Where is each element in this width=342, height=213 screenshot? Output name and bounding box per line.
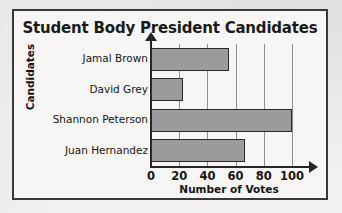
category-label: Juan Hernandez — [65, 144, 148, 156]
plot-area — [151, 44, 292, 166]
gridline — [264, 44, 265, 166]
chart-frame: Student Body President Candidates Jamal … — [12, 9, 328, 200]
x-tick-label: 60 — [228, 169, 244, 183]
bar — [151, 139, 245, 162]
x-tick-label: 80 — [256, 169, 272, 183]
chart-page: Student Body President Candidates Jamal … — [0, 0, 342, 213]
gridline — [292, 44, 293, 166]
category-label: Shannon Peterson — [53, 113, 148, 125]
x-axis-line — [150, 166, 310, 168]
category-axis-labels: Jamal BrownDavid GreyShannon PetersonJua… — [32, 44, 148, 166]
bar — [151, 48, 229, 71]
bar — [151, 109, 292, 132]
x-axis-title: Number of Votes — [134, 183, 324, 195]
category-label: Jamal Brown — [83, 52, 148, 64]
x-tick-label: 0 — [147, 169, 155, 183]
chart-title: Student Body President Candidates — [14, 19, 326, 37]
bar — [151, 78, 183, 101]
y-axis-title: Candidates — [24, 37, 36, 117]
x-tick-label: 20 — [171, 169, 187, 183]
x-tick-label: 40 — [199, 169, 215, 183]
x-tick-label: 100 — [280, 169, 304, 183]
category-label: David Grey — [89, 83, 148, 95]
